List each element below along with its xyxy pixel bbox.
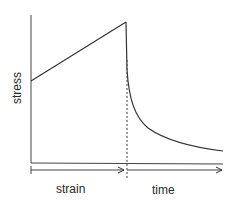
time-label: time (152, 183, 175, 197)
x-axis (31, 163, 223, 164)
loading-line (31, 22, 126, 81)
y-axis-label: stress (10, 74, 24, 104)
strain-label: strain (56, 182, 85, 196)
stress-relaxation-diagram (0, 0, 236, 216)
relaxation-curve (126, 22, 223, 151)
